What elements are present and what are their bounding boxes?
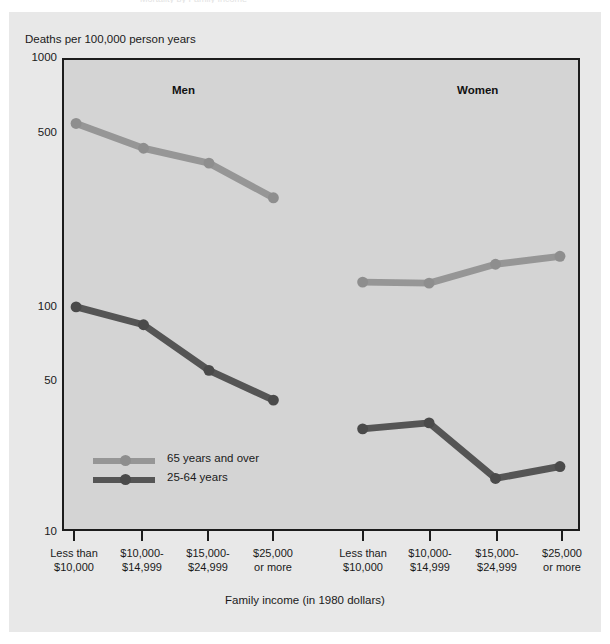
point-men-65-over-25000-more (268, 192, 279, 203)
x-label-line1: $10,000- (120, 547, 163, 559)
point-men-65-over-lt10000 (71, 118, 82, 129)
line-women-25-64 (363, 423, 560, 479)
point-women-25-64-15000-24999 (490, 473, 501, 484)
y-tick-50: 50 (44, 374, 57, 386)
legend-label-65-and-over: 65 years and over (167, 452, 259, 464)
legend-marker-65-and-over (120, 455, 131, 466)
point-women-25-64-lt10000 (357, 423, 368, 434)
line-men-25-64 (76, 307, 273, 400)
point-men-25-64-15000-24999 (204, 365, 215, 376)
x-label-women-25000-more: $25,000 or more (517, 547, 607, 574)
x-tick-men-2 (141, 531, 143, 541)
x-label-line1: Less than (339, 547, 387, 559)
point-women-65-over-25000-more (555, 251, 566, 262)
point-men-65-over-15000-24999 (204, 158, 215, 169)
chart-legend: 65 years and over 25-64 years (93, 452, 293, 490)
x-label-line2: $10,000 (54, 561, 94, 573)
legend-label-25-64: 25-64 years (167, 471, 228, 483)
caption-remnant: Mortality by Family Income (140, 0, 340, 3)
x-label-line1: $15,000- (475, 547, 518, 559)
point-women-25-64-25000-more (555, 461, 566, 472)
x-label-line1: Less than (50, 547, 98, 559)
x-label-line2: or more (254, 561, 292, 573)
chart-figure: Mortality by Family Income Deaths per 10… (0, 0, 610, 644)
x-tick-men-1 (73, 531, 75, 541)
x-label-line2: $24,999 (477, 561, 517, 573)
point-women-65-over-lt10000 (357, 277, 368, 288)
x-label-line1: $10,000- (408, 547, 451, 559)
point-men-25-64-25000-more (268, 395, 279, 406)
x-tick-men-4 (272, 531, 274, 541)
line-women-65-and-over (363, 256, 560, 283)
legend-item-65-and-over: 65 years and over (93, 452, 293, 471)
point-men-25-64-10000-14999 (138, 319, 149, 330)
x-label-line2: or more (543, 561, 581, 573)
x-label-line1: $15,000- (186, 547, 229, 559)
y-tick-500: 500 (38, 126, 57, 138)
y-tick-10: 10 (44, 525, 57, 537)
group-label-men: Men (172, 84, 195, 96)
x-tick-men-3 (207, 531, 209, 541)
point-women-65-over-10000-14999 (424, 278, 435, 289)
y-tick-100: 100 (38, 300, 57, 312)
group-label-women: Women (457, 84, 498, 96)
x-tick-women-1 (362, 531, 364, 541)
point-women-65-over-15000-24999 (490, 259, 501, 270)
legend-item-25-64: 25-64 years (93, 471, 293, 490)
legend-marker-25-64 (120, 474, 131, 485)
line-men-65-and-over (76, 123, 273, 197)
x-axis-title: Family income (in 1980 dollars) (0, 594, 610, 606)
x-tick-women-2 (429, 531, 431, 541)
y-tick-1000: 1000 (31, 51, 57, 63)
point-men-25-64-lt10000 (71, 301, 82, 312)
x-tick-women-3 (496, 531, 498, 541)
x-label-line1: $25,000 (253, 547, 293, 559)
x-label-line2: $14,999 (122, 561, 162, 573)
x-tick-women-4 (561, 531, 563, 541)
x-label-line2: $10,000 (343, 561, 383, 573)
x-label-line2: $24,999 (188, 561, 228, 573)
x-label-men-25000-more: $25,000 or more (228, 547, 318, 574)
x-label-line1: $25,000 (542, 547, 582, 559)
point-men-65-over-10000-14999 (138, 143, 149, 154)
x-label-line2: $14,999 (410, 561, 450, 573)
point-women-25-64-10000-14999 (424, 417, 435, 428)
